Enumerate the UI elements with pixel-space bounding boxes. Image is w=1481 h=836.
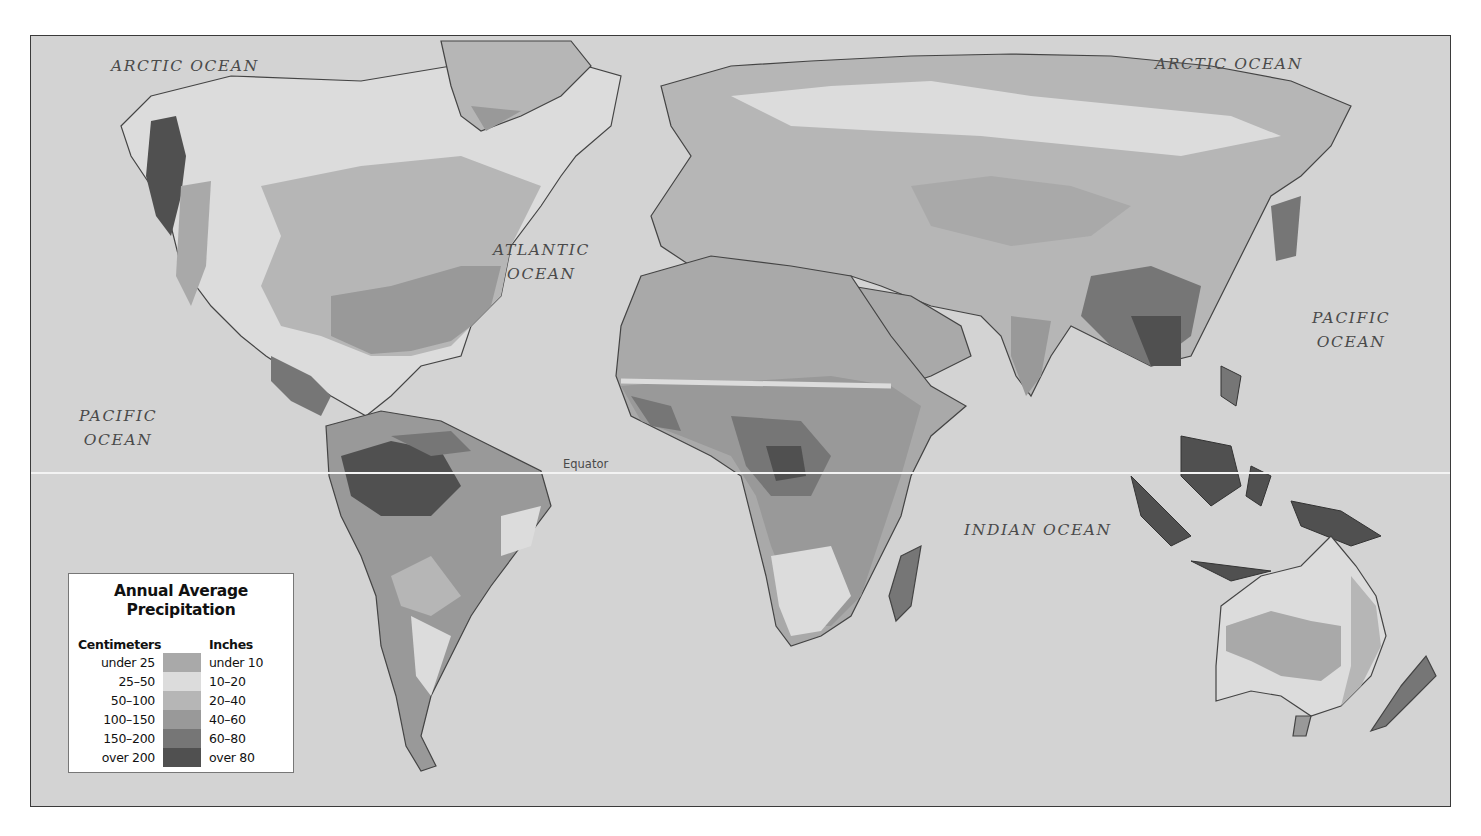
legend-row: 50–100 20–40 bbox=[69, 691, 293, 710]
legend-row: 25–50 10–20 bbox=[69, 672, 293, 691]
ocean-label-text: ARCTIC OCEAN bbox=[1155, 52, 1303, 76]
legend-row: under 25 under 10 bbox=[69, 653, 293, 672]
legend-title: Annual Average Precipitation bbox=[69, 582, 293, 620]
legend-in-value: under 10 bbox=[209, 653, 263, 672]
legend-title-line2: Precipitation bbox=[69, 601, 293, 620]
ocean-label-text: ATLANTIC bbox=[493, 238, 590, 262]
legend-in-value: 60–80 bbox=[209, 729, 246, 748]
australia bbox=[1216, 536, 1436, 736]
legend-swatch bbox=[163, 729, 201, 748]
legend-row: 100–150 40–60 bbox=[69, 710, 293, 729]
south-america bbox=[326, 411, 551, 771]
equator-label: Equator bbox=[563, 457, 608, 471]
legend-swatch bbox=[163, 691, 201, 710]
legend-in-value: 20–40 bbox=[209, 691, 246, 710]
ocean-label-text: OCEAN bbox=[493, 262, 590, 286]
legend-in-value: 40–60 bbox=[209, 710, 246, 729]
legend-cm-value: 150–200 bbox=[103, 729, 155, 748]
ocean-label-arctic-west: ARCTIC OCEAN bbox=[111, 54, 259, 78]
legend-title-line1: Annual Average bbox=[69, 582, 293, 601]
legend-column-in: Inches bbox=[209, 637, 253, 652]
ocean-label-text: PACIFIC bbox=[1312, 306, 1390, 330]
legend-cm-value: 50–100 bbox=[111, 691, 155, 710]
legend-swatch bbox=[163, 748, 201, 767]
legend-swatch bbox=[163, 710, 201, 729]
legend-cm-value: under 25 bbox=[101, 653, 155, 672]
legend-in-value: over 80 bbox=[209, 748, 255, 767]
legend-swatch bbox=[163, 672, 201, 691]
legend-swatch bbox=[163, 653, 201, 672]
ocean-label-indian: INDIAN OCEAN bbox=[964, 518, 1112, 542]
legend-cm-value: 25–50 bbox=[118, 672, 155, 691]
legend-cm-value: 100–150 bbox=[103, 710, 155, 729]
ocean-label-text: ARCTIC OCEAN bbox=[111, 54, 259, 78]
southeast-asia-islands bbox=[1131, 366, 1381, 581]
legend-row: over 200 over 80 bbox=[69, 748, 293, 767]
north-america bbox=[121, 56, 621, 416]
legend-column-cm: Centimeters bbox=[78, 637, 161, 652]
legend-cm-value: over 200 bbox=[102, 748, 155, 767]
ocean-label-text: PACIFIC bbox=[79, 404, 157, 428]
ocean-label-pacific-east: PACIFIC OCEAN bbox=[1312, 306, 1390, 354]
ocean-label-text: OCEAN bbox=[1312, 330, 1390, 354]
ocean-label-text: INDIAN OCEAN bbox=[964, 518, 1112, 542]
ocean-label-atlantic: ATLANTIC OCEAN bbox=[493, 238, 590, 286]
equator-line bbox=[31, 472, 1450, 474]
ocean-label-text: OCEAN bbox=[79, 428, 157, 452]
ocean-label-pacific-west: PACIFIC OCEAN bbox=[79, 404, 157, 452]
legend-row: 150–200 60–80 bbox=[69, 729, 293, 748]
legend-in-value: 10–20 bbox=[209, 672, 246, 691]
ocean-label-arctic-east: ARCTIC OCEAN bbox=[1155, 52, 1303, 76]
map-frame: Equator ARCTIC OCEAN ARCTIC OCEAN ATLANT… bbox=[30, 35, 1451, 807]
legend: Annual Average Precipitation Centimeters… bbox=[68, 573, 294, 773]
